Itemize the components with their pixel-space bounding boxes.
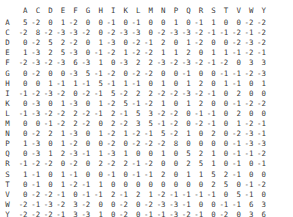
matrix-cell: 1	[90, 99, 103, 109]
matrix-cell: 6	[253, 210, 266, 213]
matrix-cell: 2	[203, 180, 216, 190]
matrix-row: P1-301-200-20-2-2-280000-1-3-3	[0, 139, 266, 149]
matrix-cell: -1	[153, 119, 166, 129]
matrix-cell: 2	[228, 89, 241, 99]
matrix-cell: -1	[15, 89, 28, 99]
matrix-cell: -2	[166, 109, 179, 119]
column-header: P	[166, 6, 179, 16]
matrix-cell: -1	[253, 159, 266, 169]
matrix-cell: 5	[153, 129, 166, 139]
matrix-cell: -3	[103, 149, 116, 159]
matrix-cell: 0	[216, 38, 229, 48]
matrix-row: G0-200-35-1-20-2-200-100-1-1-2-3	[0, 69, 266, 79]
matrix-cell: -2	[15, 200, 28, 210]
matrix-cell: 0	[191, 69, 204, 79]
matrix-cell: -1	[28, 170, 41, 180]
matrix-cell: -3	[78, 210, 91, 213]
matrix-cell: -1	[178, 69, 191, 79]
matrix-cell: -3	[28, 149, 41, 159]
matrix-cell: 5	[103, 89, 116, 99]
matrix-cell: 2	[103, 190, 116, 200]
matrix-row: I-1-2-3-20-2-15-222-2-2-3-2-10200	[0, 89, 266, 99]
matrix-cell: 2	[178, 48, 191, 58]
column-header: W	[241, 6, 254, 16]
matrix-cell: 2	[178, 159, 191, 169]
matrix-cell: 0	[15, 99, 28, 109]
matrix-cell: -1	[140, 210, 153, 213]
matrix-cell: -3	[28, 48, 41, 58]
matrix-cell: -1	[216, 69, 229, 79]
matrix-cell: 0	[241, 79, 254, 89]
matrix-cell: -2	[178, 210, 191, 213]
matrix-cell: -3	[178, 28, 191, 38]
matrix-cell: -2	[103, 159, 116, 169]
matrix-cell: 0	[241, 159, 254, 169]
matrix-cell: 2	[191, 99, 204, 109]
matrix-cell: -2	[103, 129, 116, 139]
matrix-cell: -1	[90, 89, 103, 99]
matrix-cell: 0	[115, 180, 128, 190]
matrix-cell: -3	[40, 89, 53, 99]
matrix-cell: 0	[203, 210, 216, 213]
matrix-cell: 1	[153, 48, 166, 58]
row-label: L	[0, 109, 15, 119]
matrix-cell: 1	[53, 170, 66, 180]
matrix-cell: -3	[65, 99, 78, 109]
matrix-cell: -3	[241, 139, 254, 149]
matrix-cell: -2	[241, 18, 254, 28]
column-header: S	[203, 6, 216, 16]
matrix-cell: -2	[53, 89, 66, 99]
matrix-cell: 2	[65, 109, 78, 119]
matrix-cell: 2	[103, 119, 116, 129]
matrix-cell: -2	[28, 190, 41, 200]
matrix-cell: -2	[115, 119, 128, 129]
matrix-cell: -3	[65, 69, 78, 79]
row-label: E	[0, 48, 15, 58]
row-label: W	[0, 200, 15, 210]
matrix-cell: -3	[153, 58, 166, 68]
matrix-cell: 1	[40, 149, 53, 159]
matrix-cell: -1	[140, 38, 153, 48]
matrix-cell: 0	[15, 190, 28, 200]
column-header: M	[140, 6, 153, 16]
matrix-cell: -2	[253, 38, 266, 48]
matrix-cell: -3	[153, 200, 166, 210]
matrix-cell: 5	[203, 170, 216, 180]
matrix-cell: -3	[178, 58, 191, 68]
matrix-cell: 0	[203, 69, 216, 79]
matrix-cell: 0	[78, 99, 91, 109]
matrix-cell: -1	[103, 170, 116, 180]
matrix-cell: -1	[228, 149, 241, 159]
matrix-cell: 0	[228, 210, 241, 213]
matrix-cell: 0	[191, 180, 204, 190]
matrix-cell: 0	[216, 129, 229, 139]
matrix-cell: -1	[203, 58, 216, 68]
matrix-cell: 0	[90, 119, 103, 129]
matrix-cell: -2	[191, 38, 204, 48]
matrix-cell: 0	[90, 18, 103, 28]
matrix-cell: -2	[253, 149, 266, 159]
matrix-cell: -1	[140, 170, 153, 180]
matrix-cell: 5	[178, 149, 191, 159]
matrix-cell: -1	[90, 69, 103, 79]
matrix-cell: 0	[90, 28, 103, 38]
row-label: C	[0, 28, 15, 38]
matrix-cell: 1	[15, 48, 28, 58]
matrix-cell: -1	[228, 170, 241, 180]
column-header: T	[216, 6, 229, 16]
matrix-cell: 0	[140, 79, 153, 89]
matrix-cell: -2	[128, 139, 141, 149]
matrix-cell: -2	[78, 28, 91, 38]
matrix-cell: 2	[191, 79, 204, 89]
matrix-cell: -3	[166, 210, 179, 213]
matrix-cell: 0	[253, 170, 266, 180]
matrix-cell: 0	[216, 139, 229, 149]
matrix-cell: 0	[203, 38, 216, 48]
matrix-cell: 0	[140, 180, 153, 190]
matrix-row: L-1-3-2-22-2-12-153-2-20-1-10200	[0, 109, 266, 119]
matrix-cell: 2	[216, 170, 229, 180]
matrix-cell: -1	[178, 190, 191, 200]
matrix-cell: 0	[115, 139, 128, 149]
matrix-cell: 1	[90, 129, 103, 139]
matrix-cell: -2	[153, 89, 166, 99]
